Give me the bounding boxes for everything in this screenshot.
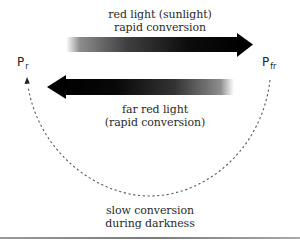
dark-reversion-caption: slow conversion during darkness bbox=[85, 204, 215, 230]
far-red-light-arrow bbox=[47, 75, 234, 99]
far-red-light-caption: far red light (rapid conversion) bbox=[90, 103, 220, 129]
red-light-arrow-head bbox=[237, 33, 253, 57]
state-pfr-subscript: fr bbox=[270, 62, 276, 71]
red-light-arrow bbox=[66, 33, 253, 57]
state-pr-subscript: r bbox=[25, 62, 28, 71]
bottom-divider bbox=[0, 237, 300, 239]
state-label-pfr: Pfr bbox=[262, 55, 276, 71]
state-pr-symbol: P bbox=[17, 55, 24, 69]
state-label-pr: Pr bbox=[17, 55, 29, 71]
red-light-caption: red light (sunlight) rapid conversion bbox=[95, 8, 225, 34]
dark-reversion-arrowhead-icon bbox=[25, 77, 30, 84]
far-red-light-caption-line1: far red light bbox=[90, 103, 220, 116]
far-red-light-caption-line2: (rapid conversion) bbox=[90, 116, 220, 129]
far-red-light-arrow-head bbox=[47, 75, 66, 99]
dark-reversion-caption-line2: during darkness bbox=[85, 217, 215, 230]
far-red-light-arrow-shaft bbox=[64, 79, 234, 95]
red-light-caption-line2: rapid conversion bbox=[95, 21, 225, 34]
state-pfr-symbol: P bbox=[262, 55, 269, 69]
red-light-caption-line1: red light (sunlight) bbox=[95, 8, 225, 21]
dark-reversion-caption-line1: slow conversion bbox=[85, 204, 215, 217]
red-light-arrow-shaft bbox=[66, 37, 239, 52]
